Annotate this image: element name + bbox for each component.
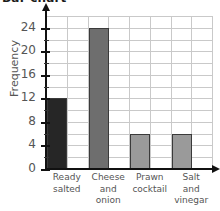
y-axis-tick-minor <box>44 157 49 158</box>
x-axis-category-label: Readysalted <box>46 172 88 211</box>
y-axis-tick-major <box>41 169 50 171</box>
category-label-line: Prawn <box>130 172 170 184</box>
y-axis-tick-label: 8 <box>0 114 36 128</box>
y-axis-tick-major <box>41 28 50 30</box>
bar <box>89 28 109 169</box>
bar <box>47 98 67 169</box>
y-axis-tick-label: 20 <box>0 43 36 57</box>
x-axis-arrow-icon <box>212 165 220 173</box>
y-axis-tick-label: 24 <box>0 20 36 34</box>
y-axis-tick-minor <box>44 40 49 41</box>
bar-chart: Bar chart Frequency 04812162024 Readysal… <box>0 0 220 211</box>
chart-title: Bar chart <box>2 0 67 5</box>
category-label-line: onion <box>89 195 129 207</box>
y-axis-tick-minor <box>44 134 49 135</box>
y-axis-tick-major <box>41 51 50 53</box>
y-axis-tick-minor <box>44 110 49 111</box>
y-axis-tick-major <box>41 145 50 147</box>
category-label-line: cocktail <box>130 184 170 196</box>
category-label-line: Ready <box>47 172 87 184</box>
category-label-line: vinegar <box>172 195 212 207</box>
bar <box>172 134 192 169</box>
category-label-line: and <box>172 184 212 196</box>
y-axis-tick-label: 0 <box>0 161 36 175</box>
y-axis-tick-minor <box>44 87 49 88</box>
x-axis-line <box>45 168 213 170</box>
x-axis-category-label: Prawncocktail <box>129 172 171 211</box>
category-label-line: salted <box>47 184 87 196</box>
y-axis-tick-major <box>41 122 50 124</box>
x-axis-category-labels: ReadysaltedCheeseandonionPrawncocktailSa… <box>46 172 212 211</box>
y-axis-tick-label: 4 <box>0 137 36 151</box>
y-axis-tick-major <box>41 98 50 100</box>
y-axis-tick-minor <box>44 63 49 64</box>
bar-series <box>46 16 212 169</box>
y-axis-tick-label: 16 <box>0 67 36 81</box>
category-label-line: Cheese <box>89 172 129 184</box>
y-axis-tick-major <box>41 75 50 77</box>
bar <box>130 134 150 169</box>
y-axis-tick-label: 12 <box>0 90 36 104</box>
category-label-line: Salt <box>172 172 212 184</box>
y-axis-arrow-icon <box>42 3 50 11</box>
plot-area <box>46 16 212 169</box>
gridline-vertical <box>212 16 213 169</box>
x-axis-category-label: Cheeseandonion <box>88 172 130 211</box>
x-axis-category-label: Saltandvinegar <box>171 172 213 211</box>
category-label-line: and <box>89 184 129 196</box>
